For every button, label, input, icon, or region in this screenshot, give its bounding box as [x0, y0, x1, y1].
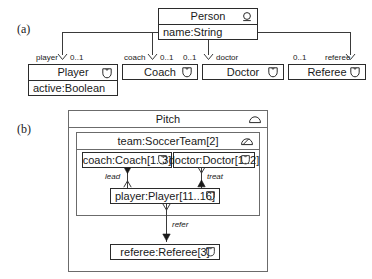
multiplicity-player: 0..1 — [70, 53, 83, 62]
class-box-referee-title: Referee — [289, 65, 365, 79]
shield-badge-icon — [240, 154, 251, 165]
class-box-coach-title: Coach — [123, 65, 197, 79]
object-box-player-title: player:Player[11..16] — [111, 189, 219, 203]
shield-badge-icon — [267, 66, 279, 78]
generalization-drop-referee — [350, 32, 351, 55]
class-name-coach: Coach — [144, 67, 176, 78]
generalization-arrow-referee — [345, 53, 356, 62]
link-label-lead: lead — [105, 172, 120, 181]
role-label-coach: coach — [124, 53, 145, 62]
composite-name-pitch: Pitch — [156, 114, 180, 125]
class-box-player-attributes: active:Boolean — [29, 80, 117, 95]
shield-badge-icon — [157, 154, 168, 165]
link-arrowhead-refer-hollow — [162, 203, 171, 211]
composite-box-team-title: team:SoccerTeam[2] — [77, 133, 259, 150]
link-arrowhead-refer-filled — [162, 233, 171, 242]
class-box-doctor[interactable]: Doctor — [202, 64, 284, 80]
object-box-coach[interactable]: coach:Coach[1..3] — [82, 152, 172, 168]
dome-slash-icon — [240, 136, 254, 147]
shield-badge-icon — [181, 66, 193, 78]
class-box-coach[interactable]: Coach — [122, 64, 198, 80]
attribute-person-name: name:String — [163, 27, 222, 38]
composite-name-team: team:SoccerTeam[2] — [118, 136, 219, 147]
class-box-person[interactable]: Person name:String — [158, 8, 258, 40]
role-head-icon — [241, 11, 253, 23]
link-label-treat: treat — [207, 172, 223, 181]
class-name-player: Player — [57, 67, 88, 78]
generalization-arrow-doctor — [203, 53, 214, 62]
panel-b-label: (b) — [17, 122, 31, 137]
generalization-drop-coach — [152, 32, 153, 55]
class-box-referee[interactable]: Referee — [288, 64, 366, 80]
shield-badge-icon — [205, 246, 216, 257]
object-box-referee-title: referee:Referee[3] — [111, 245, 219, 259]
class-box-person-title: Person — [159, 9, 257, 24]
class-box-doctor-title: Doctor — [203, 65, 283, 79]
class-name-person: Person — [191, 11, 226, 22]
attribute-player-active: active:Boolean — [33, 83, 105, 94]
object-box-coach-title: coach:Coach[1..3] — [83, 153, 171, 167]
object-box-player[interactable]: player:Player[11..16] — [110, 188, 220, 204]
dome-plain-icon — [248, 114, 262, 125]
generalization-drop-player — [62, 32, 63, 55]
shield-badge-icon — [205, 190, 216, 201]
role-label-player: player — [36, 53, 58, 62]
object-box-referee[interactable]: referee:Referee[3] — [110, 244, 220, 260]
multiplicity-doctor: 0..1 — [183, 53, 196, 62]
link-label-refer: refer — [172, 220, 188, 229]
object-label-player: player:Player[11..16] — [115, 191, 215, 202]
object-box-doctor[interactable]: doctor:Doctor[1..2] — [173, 152, 255, 168]
generalization-arrow-coach — [147, 53, 158, 62]
object-label-referee: referee:Referee[3] — [120, 247, 209, 258]
shield-badge-icon — [101, 67, 113, 79]
class-name-referee: Referee — [307, 67, 346, 78]
link-arrowhead-treat-filled — [197, 179, 206, 188]
object-box-doctor-title: doctor:Doctor[1..2] — [174, 153, 254, 167]
class-name-doctor: Doctor — [227, 67, 259, 78]
role-label-doctor: doctor — [216, 53, 238, 62]
panel-a-label: (a) — [17, 22, 30, 37]
shield-badge-icon — [349, 66, 361, 78]
link-arrowhead-lead-hollow — [123, 180, 132, 188]
class-box-person-attributes: name:String — [159, 24, 257, 39]
class-box-player[interactable]: Player active:Boolean — [28, 64, 118, 96]
multiplicity-referee: 0..1 — [293, 53, 306, 62]
class-box-player-title: Player — [29, 65, 117, 80]
composite-box-pitch-title: Pitch — [69, 111, 267, 128]
generalization-arrow-player — [57, 53, 68, 62]
generalization-bus-right — [258, 32, 350, 33]
multiplicity-coach: 0..1 — [160, 53, 173, 62]
